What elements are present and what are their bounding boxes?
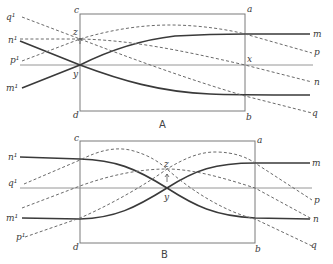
panel-a-right-label-q: q <box>312 108 318 118</box>
panel-b-left-label-q: q¹ <box>8 178 17 188</box>
panel-b: c a d b z y n¹ q¹ m¹ p¹ m p n q B <box>6 133 321 260</box>
panel-b-curve-m <box>22 163 310 219</box>
panel-a-curve-p <box>22 25 312 61</box>
panel-b-label-y: y <box>163 192 170 202</box>
panel-b-label-c: c <box>74 133 79 143</box>
panel-b-right-label-n: n <box>313 214 319 224</box>
panel-a-label-c: c <box>74 5 79 15</box>
panel-b-label-z: z <box>163 159 169 169</box>
panel-a-label-y: y <box>72 69 79 79</box>
panel-a-caption: A <box>159 119 166 130</box>
panel-b-caption: B <box>161 249 168 260</box>
panel-b-left-label-n: n¹ <box>8 152 17 162</box>
panel-b-left-label-p: p¹ <box>16 232 25 242</box>
panel-b-z-arrow-icon <box>165 174 169 182</box>
panel-a-label-d: d <box>73 110 79 120</box>
panel-a-right-label-m: m <box>313 29 322 39</box>
panel-b-right-label-m: m <box>312 158 321 168</box>
panel-a-left-label-n: n¹ <box>8 35 17 45</box>
panel-a-curve-m <box>22 34 310 88</box>
panel-b-left-label-m: m¹ <box>6 213 18 223</box>
panel-a-label-x: x <box>247 54 252 64</box>
panel-b-label-a: a <box>257 135 262 145</box>
panel-a-left-label-m: m¹ <box>6 83 18 93</box>
panel-a-label-z: z <box>72 27 78 37</box>
panel-b-label-d: d <box>73 242 79 252</box>
panel-a-label-a: a <box>247 4 252 14</box>
panel-b-right-label-p: p <box>314 195 320 205</box>
panel-b-label-b: b <box>255 244 261 254</box>
panel-a-label-b: b <box>246 112 252 122</box>
panel-a-right-label-p: p <box>314 47 320 57</box>
panel-a: c a d b z y x q¹ n¹ p¹ m¹ m p n q A <box>6 4 322 130</box>
panel-a-curve-n <box>20 41 310 95</box>
diagram-canvas: c a d b z y x q¹ n¹ p¹ m¹ m p n q A <box>0 0 333 264</box>
panel-a-right-label-n: n <box>314 77 320 87</box>
panel-a-left-label-q: q¹ <box>6 12 15 22</box>
panel-a-left-label-p: p¹ <box>10 55 19 65</box>
panel-b-right-label-q: q <box>311 240 317 250</box>
